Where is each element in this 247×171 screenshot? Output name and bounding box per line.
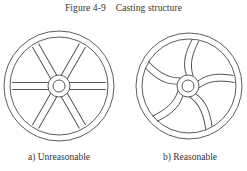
wheel-reasonable [136, 33, 242, 139]
wheel-unreasonable [4, 31, 114, 141]
caption-unreasonable: a) Unreasonable [9, 152, 109, 162]
casting-diagrams [0, 0, 247, 171]
caption-reasonable: b) Reasonable [140, 152, 240, 162]
curved-spokes [143, 39, 234, 129]
straight-spokes [12, 44, 106, 129]
